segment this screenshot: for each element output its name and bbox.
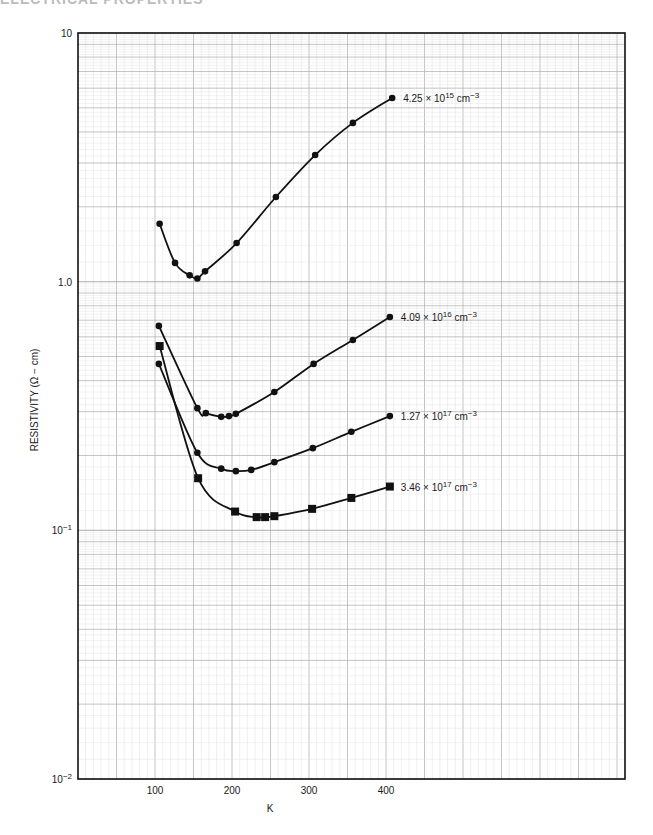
circle-marker [387, 314, 394, 321]
series-line [160, 98, 393, 279]
graph-paper-grid [78, 33, 625, 779]
circle-marker [186, 272, 193, 279]
circle-marker [172, 260, 179, 267]
x-tick-label: 100 [147, 785, 164, 796]
circle-marker [194, 405, 201, 412]
series-label-3: 1.27 × 1017 cm−3 [401, 409, 478, 422]
circle-marker [389, 95, 396, 102]
y-axis-ticks: 101.010−110−2 [52, 28, 73, 785]
data-series [156, 95, 396, 521]
circle-marker [350, 120, 357, 127]
x-tick-label: 400 [378, 785, 395, 796]
circle-marker [226, 413, 233, 420]
circle-marker [310, 445, 317, 452]
x-tick-label: 300 [301, 785, 318, 796]
circle-marker [348, 429, 355, 436]
square-marker [261, 513, 269, 521]
y-tick-label: 10−2 [52, 772, 73, 785]
circle-marker [218, 465, 225, 472]
square-marker [194, 474, 202, 482]
y-tick-label: 10−1 [52, 523, 73, 536]
series-label-4: 3.46 × 1017 cm−3 [401, 480, 478, 493]
series-4 [156, 342, 394, 521]
circle-marker [312, 152, 319, 159]
circle-marker [194, 450, 201, 457]
square-marker [347, 494, 355, 502]
square-marker [308, 505, 316, 513]
square-marker [231, 508, 239, 516]
series-label-1: 4.25 × 1015 cm−3 [403, 91, 480, 104]
circle-marker [233, 468, 240, 475]
circle-marker [387, 413, 394, 420]
circle-marker [273, 194, 280, 201]
square-marker [386, 483, 394, 491]
circle-marker [156, 361, 163, 368]
x-axis-ticks: 100200300400 [147, 785, 395, 796]
series-labels: 4.25 × 1015 cm−34.09 × 1016 cm−31.27 × 1… [401, 91, 480, 493]
circle-marker [271, 459, 278, 466]
x-axis-label: K [267, 803, 274, 814]
circle-marker [350, 337, 357, 344]
series-1 [156, 95, 395, 282]
circle-marker [271, 389, 278, 396]
circle-marker [233, 411, 240, 418]
circle-marker [202, 268, 209, 275]
circle-marker [218, 414, 225, 421]
square-marker [156, 342, 164, 350]
y-tick-label: 1.0 [58, 277, 72, 288]
series-label-2: 4.09 × 1016 cm−3 [401, 310, 478, 323]
square-marker [270, 512, 278, 520]
circle-marker [194, 275, 201, 282]
y-tick-label: 10 [61, 28, 73, 39]
y-axis-label: RESISTIVITY (Ω − cm) [29, 349, 40, 452]
circle-marker [156, 220, 163, 227]
circle-marker [156, 323, 163, 330]
square-marker [253, 513, 261, 521]
circle-marker [233, 240, 240, 247]
plot-frame [78, 33, 625, 779]
x-tick-label: 200 [224, 785, 241, 796]
resistivity-chart: 101.010−110−2 100200300400 K RESISTIVITY… [0, 0, 653, 835]
circle-marker [310, 361, 317, 368]
circle-marker [248, 467, 255, 474]
circle-marker [203, 410, 210, 417]
